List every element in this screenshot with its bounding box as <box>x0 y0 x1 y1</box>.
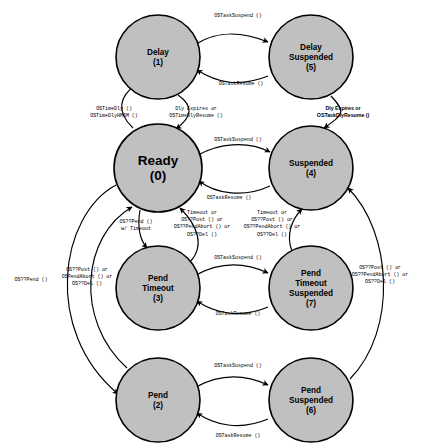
edge-label-delay-suspend: OSTaskSuspend () <box>214 13 262 19</box>
edge-label-line: OSPendAbort () or <box>62 274 113 280</box>
edge-label-line: Dly Expires or <box>326 105 361 111</box>
state-number: (2) <box>153 401 163 410</box>
edge-label-line: OS??Pend () <box>120 219 153 225</box>
state-node-pend_timeout_susp[interactable]: PendTimeoutSuspended(7) <box>269 246 353 330</box>
transition-edge-susp-to-ready <box>199 181 270 193</box>
edge-label-line: OSTimeDlyHMSM () <box>90 113 138 119</box>
state-node-ready[interactable]: Ready(0) <box>114 124 202 212</box>
edge-label-line: OS??PendAbort () or <box>244 224 301 230</box>
edge-label-line: OS??Del () <box>365 279 395 285</box>
edge-label-pendtmo-to-ready: Timeout orOS??Post () orOS??PendAbort ()… <box>174 210 231 238</box>
state-number: (7) <box>306 299 316 308</box>
edge-label-line: OSTaskResume () <box>219 81 264 87</box>
state-name-line: Delay <box>300 43 322 52</box>
state-diagram-canvas: Delay(1)DelaySuspended(5)Ready(0)Suspend… <box>0 0 429 448</box>
edge-label-ready-resume: OSTaskResume () <box>207 195 252 201</box>
state-node-pend_suspended[interactable]: PendSuspended(6) <box>269 358 353 442</box>
edge-label-line: OS??Post () or <box>251 217 293 223</box>
edge-label-pend-to-ready: OS??Post () orOSPendAbort () orOS??Del (… <box>62 267 113 287</box>
transition-edge-ready-to-pend-edge <box>67 185 118 394</box>
state-circle <box>116 15 200 99</box>
edge-label-line: OS??PendAbort () or <box>352 272 409 278</box>
state-number: (5) <box>306 63 316 72</box>
state-node-pend_timeout[interactable]: PendTimeout(3) <box>116 246 200 330</box>
state-name-line: Pend <box>148 391 168 400</box>
state-node-pend[interactable]: Pend(2) <box>116 358 200 442</box>
edge-label-line: OSTaskSuspend () <box>214 137 262 143</box>
state-name-line: Timeout <box>295 279 327 288</box>
edge-label-ready-to-pend: OS??Pend () <box>15 277 48 283</box>
edge-label-line: OSTaskResume () <box>207 195 252 201</box>
edge-label-pendsusp-to-susp: OS??Post () orOS??PendAbort () orOS??Del… <box>352 265 409 285</box>
edge-label-line: OS??Post () or <box>66 267 108 273</box>
edge-label-pendtmo-suspend: OSTaskSuspend () <box>214 255 262 261</box>
edge-label-line: OSTaskDlyResume () <box>317 112 370 118</box>
state-name-line: Pend <box>301 386 321 395</box>
edge-label-line: OSTaskResume () <box>216 433 261 439</box>
transition-edge-delay-to-ready-edge <box>176 95 189 129</box>
state-circle <box>269 246 353 330</box>
edge-label-line: w/ Timeout <box>121 226 151 232</box>
edge-label-line: OS??Post () or <box>181 217 223 223</box>
task-state-diagram: Delay(1)DelaySuspended(5)Ready(0)Suspend… <box>0 0 429 448</box>
edge-label-line: OSTaskSuspend () <box>214 255 262 261</box>
state-node-delay[interactable]: Delay(1) <box>116 15 200 99</box>
state-name-line: Delay <box>147 48 169 57</box>
transition-edge-pend-to-pendsusp <box>196 377 268 387</box>
edge-label-line: OSTimeDly () <box>96 106 132 112</box>
state-node-suspended[interactable]: Suspended(4) <box>269 126 353 210</box>
edge-label-delay-resume: OSTaskResume () <box>219 81 264 87</box>
state-name-line: Suspended <box>289 396 333 405</box>
state-name-line: Suspended <box>289 289 333 298</box>
edge-label-line: OS??Post () or <box>359 265 401 271</box>
state-number: (6) <box>306 406 316 415</box>
edge-label-line: OS??PendAbort () or <box>174 224 231 230</box>
state-name-line: Timeout <box>142 284 174 293</box>
state-number: (1) <box>153 58 163 67</box>
edge-label-pend-resume: OSTaskResume () <box>216 433 261 439</box>
transition-edge-pendsusp-to-pend <box>197 413 268 426</box>
state-name-line: Suspended <box>289 53 333 62</box>
state-name-line: Pend <box>148 274 168 283</box>
edge-label-delay-to-ready: Dly Expires orOSTimeDlyResume () <box>169 106 223 119</box>
state-circle <box>269 126 353 210</box>
edge-label-line: OS??Pend () <box>15 277 48 283</box>
edge-label-line: OS??Del () <box>72 281 102 287</box>
transition-edge-pendtmo-to-pendtmosusp <box>196 265 268 275</box>
edge-label-pend-suspend: OSTaskSuspend () <box>214 363 262 369</box>
edge-label-line: OSTaskResume () <box>216 311 261 317</box>
edge-label-pendtmosusp-to-susp: Timeout orOS??Post () orOS??PendAbort ()… <box>244 210 301 238</box>
edge-label-ready-suspend: OSTaskSuspend () <box>214 137 262 143</box>
edge-label-line: Timeout or <box>257 210 287 216</box>
state-number: (0) <box>150 168 167 183</box>
state-circle <box>116 358 200 442</box>
edge-label-ready-to-delay: OSTimeDly ()OSTimeDlyHMSM () <box>90 106 138 119</box>
edge-label-line: OSTaskSuspend () <box>214 363 262 369</box>
state-name-line: Suspended <box>289 159 333 168</box>
edge-label-dlysusp-to-susp: Dly Expires orOSTaskDlyResume () <box>317 105 370 118</box>
transition-edge-ready-to-susp <box>198 145 270 155</box>
edge-label-pendtmo-resume: OSTaskResume () <box>216 311 261 317</box>
edge-label-line: Timeout or <box>187 210 217 216</box>
edge-label-pend-w-timeout: OS??Pend ()w/ Timeout <box>120 219 153 232</box>
state-name-line: Pend <box>301 269 321 278</box>
edge-label-line: OSTimeDlyResume () <box>169 113 223 119</box>
state-number: (3) <box>153 294 163 303</box>
transition-edge-delay-to-delaysusp <box>196 34 268 44</box>
state-number: (4) <box>306 169 316 178</box>
edge-label-line: Dly Expires or <box>175 106 217 112</box>
state-node-delay_suspended[interactable]: DelaySuspended(5) <box>269 15 353 99</box>
state-name-line: Ready <box>138 153 179 168</box>
edge-label-line: OS??Del () <box>257 232 287 238</box>
edge-label-line: OS??Del () <box>187 232 217 238</box>
edge-label-line: OSTaskSuspend () <box>214 13 262 19</box>
